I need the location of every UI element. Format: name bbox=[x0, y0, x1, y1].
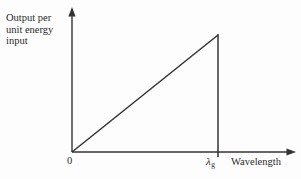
y-axis-label-line-1: Output per bbox=[6, 12, 70, 24]
x-axis-arrowhead bbox=[287, 148, 297, 155]
y-axis-label: Output per unit energy input bbox=[6, 12, 70, 47]
x-axis-label: Wavelength bbox=[231, 156, 281, 168]
y-axis-label-line-2: unit energy bbox=[6, 24, 70, 36]
y-axis-label-line-3: input bbox=[6, 35, 70, 47]
origin-tick-label: 0 bbox=[67, 155, 72, 167]
cutoff-wavelength-tick-label: λg bbox=[206, 155, 215, 169]
spectral-response-figure: Output per unit energy input 0 λg Wavele… bbox=[0, 0, 301, 179]
response-ramp-line bbox=[72, 35, 218, 152]
lambda-subscript: g bbox=[211, 160, 215, 169]
